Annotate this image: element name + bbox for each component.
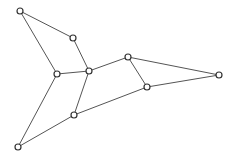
node-C xyxy=(54,71,60,77)
edge-C-D xyxy=(57,71,89,74)
edge-E-G xyxy=(128,57,219,75)
node-D xyxy=(86,68,92,74)
edge-F-G xyxy=(147,75,219,87)
node-E xyxy=(125,54,131,60)
edge-D-E xyxy=(89,57,128,71)
edge-B-D xyxy=(73,38,89,71)
edge-F-H xyxy=(74,87,147,115)
node-B xyxy=(70,35,76,41)
edges-group xyxy=(18,11,219,147)
graph-diagram xyxy=(0,0,233,157)
nodes-group xyxy=(15,8,222,150)
edge-E-F xyxy=(128,57,147,87)
node-F xyxy=(144,84,150,90)
node-I xyxy=(15,144,21,150)
node-A xyxy=(17,8,23,14)
node-G xyxy=(216,72,222,78)
edge-D-H xyxy=(74,71,89,115)
node-H xyxy=(71,112,77,118)
